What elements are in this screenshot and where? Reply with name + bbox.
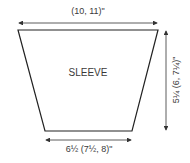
sleeve-diagram (0, 0, 190, 163)
bottom-width-label: 6½ (7½, 8)" (45, 144, 133, 154)
top-width-label: (10, 11)" (0, 6, 176, 16)
sleeve-label: SLEEVE (18, 67, 158, 78)
height-label: 5¼ (6, 7¼)" (171, 57, 181, 104)
sleeve-shape (18, 30, 158, 131)
